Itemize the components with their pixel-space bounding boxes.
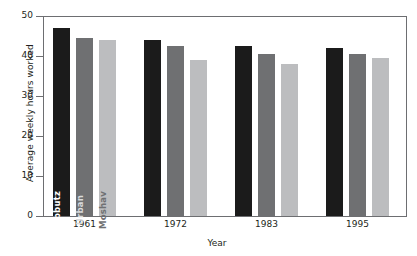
bar-kibbutz-1972 bbox=[144, 40, 161, 216]
bar-moshav-1972 bbox=[190, 60, 207, 216]
y-tick-30: 30 bbox=[0, 96, 43, 97]
y-tick-line bbox=[36, 216, 43, 217]
bar-urban-1983 bbox=[258, 54, 275, 216]
bar-moshav-1995 bbox=[372, 58, 389, 216]
bar-kibbutz-1961: Kibbutz bbox=[53, 28, 70, 216]
y-tick-line bbox=[36, 176, 43, 177]
bar-kibbutz-1983 bbox=[235, 46, 252, 216]
bar-kibbutz-1995 bbox=[326, 48, 343, 216]
bar-moshav-1961: Moshav bbox=[99, 40, 116, 216]
y-tick-line bbox=[36, 56, 43, 57]
bar-series-label-kibbutz: Kibbutz bbox=[52, 191, 62, 229]
x-axis-title: Year bbox=[26, 238, 408, 248]
y-tick-label: 50 bbox=[22, 10, 33, 20]
x-tick-label-1983: 1983 bbox=[237, 219, 297, 229]
y-tick-line bbox=[36, 96, 43, 97]
y-tick-20: 20 bbox=[0, 136, 43, 137]
y-tick-label: 10 bbox=[22, 170, 33, 180]
bar-urban-1961: Urban bbox=[76, 38, 93, 216]
y-tick-line bbox=[36, 136, 43, 137]
bar-urban-1995 bbox=[349, 54, 366, 216]
y-tick-label: 0 bbox=[27, 210, 33, 220]
chart-screenshot: Average weekly hours worked 01020304050 … bbox=[0, 0, 417, 256]
y-tick-label: 20 bbox=[22, 130, 33, 140]
bar-moshav-1983 bbox=[281, 64, 298, 216]
y-tick-40: 40 bbox=[0, 56, 43, 57]
y-tick-label: 30 bbox=[22, 90, 33, 100]
y-tick-line bbox=[36, 16, 43, 17]
y-tick-10: 10 bbox=[0, 176, 43, 177]
bar-series-label-moshav: Moshav bbox=[98, 191, 108, 229]
y-tick-label: 40 bbox=[22, 50, 33, 60]
bar-urban-1972 bbox=[167, 46, 184, 216]
y-tick-0: 0 bbox=[0, 216, 43, 217]
y-tick-50: 50 bbox=[0, 16, 43, 17]
x-tick-label-1972: 1972 bbox=[146, 219, 206, 229]
bar-series-label-urban: Urban bbox=[75, 195, 85, 225]
x-tick-label-1995: 1995 bbox=[328, 219, 388, 229]
